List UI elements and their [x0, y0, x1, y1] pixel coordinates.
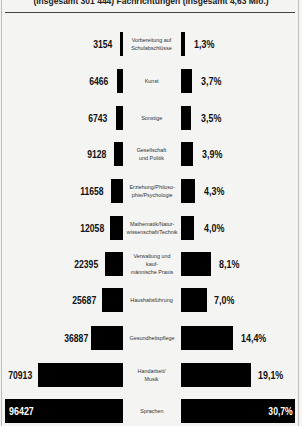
- chart-row: 9128 Gesellschaft und Politik 3,9%: [0, 142, 302, 166]
- left-bar: [120, 32, 123, 56]
- right-bar: [181, 363, 251, 387]
- chart-row: 96427 Sprachen 30,7%: [0, 399, 302, 423]
- right-bar: [181, 288, 207, 312]
- right-value: 14,4%: [241, 326, 266, 350]
- chart-row: 11658 Erziehung/Philoso- phie/Psychologi…: [0, 179, 302, 203]
- right-bar: [181, 326, 233, 350]
- category-label: Verwaltung und kauf- männische Praxis: [124, 252, 180, 276]
- left-value: 9128: [87, 142, 106, 166]
- left-bar: [116, 106, 123, 130]
- chart-row: 22395 Verwaltung und kauf- männische Pra…: [0, 252, 302, 276]
- right-value: 3,7%: [201, 69, 221, 93]
- right-value: 30,7%: [269, 399, 293, 423]
- right-bar: [181, 252, 211, 276]
- right-value: 3,9%: [202, 142, 222, 166]
- left-bar: [110, 216, 123, 240]
- left-value: 70913: [8, 363, 32, 387]
- left-bar: [38, 363, 123, 387]
- left-value: 6466: [89, 69, 108, 93]
- right-value: 7,0%: [214, 288, 234, 312]
- left-bar: [91, 326, 123, 350]
- header-divider: [5, 12, 295, 13]
- chart-row: 6466 Kunst 3,7%: [0, 69, 302, 93]
- category-label: Kunst: [124, 69, 180, 93]
- left-bar: [114, 142, 123, 166]
- right-value: 4,0%: [204, 216, 224, 240]
- left-value: 6743: [88, 106, 107, 130]
- right-bar: [181, 32, 185, 56]
- right-bar: [181, 179, 195, 203]
- left-value: 36887: [64, 326, 88, 350]
- left-value: 11658: [81, 179, 104, 203]
- chart-row: 12058 Mathematik/Natur- wissenschaft/Tec…: [0, 216, 302, 240]
- left-value: 25687: [72, 288, 96, 312]
- left-value: 22395: [74, 252, 98, 276]
- category-label: Handarbeit/ Musik: [124, 363, 180, 387]
- right-bar: [181, 69, 192, 93]
- right-bar: [181, 216, 194, 240]
- right-bar: [181, 142, 193, 166]
- left-bar: [105, 252, 123, 276]
- category-label: Gesundheitspflege: [124, 326, 180, 350]
- category-label: Sonstige: [124, 106, 180, 130]
- chart-header: (insgesamt 301 444) Fachrichtungen (insg…: [0, 0, 302, 8]
- category-label: Gesellschaft und Politik: [124, 142, 180, 166]
- left-value: 12058: [80, 216, 104, 240]
- category-label: Sprachen: [124, 399, 180, 423]
- category-label: Mathematik/Natur- wissenschaft/Technik: [124, 216, 180, 240]
- left-bar: [111, 179, 123, 203]
- chart-row: 36887 Gesundheitspflege 14,4%: [0, 326, 302, 350]
- left-bar: [117, 69, 123, 93]
- right-value: 8,1%: [219, 252, 239, 276]
- left-value: 96427: [9, 399, 34, 423]
- category-label: Haushaltsführung: [124, 288, 180, 312]
- chart-row: 70913 Handarbeit/ Musik 19,1%: [0, 363, 302, 387]
- right-value: 4,3%: [204, 179, 224, 203]
- right-value: 1,3%: [194, 32, 214, 56]
- right-bar: [181, 106, 191, 130]
- right-value: 19,1%: [258, 363, 283, 387]
- chart-row: 25687 Haushaltsführung 7,0%: [0, 288, 302, 312]
- left-bar: [102, 288, 123, 312]
- chart-row: 3154 Vorbereitung auf Schulabschlüsse 1,…: [0, 32, 302, 56]
- right-value: 3,5%: [201, 106, 221, 130]
- category-label: Vorbereitung auf Schulabschlüsse: [124, 32, 180, 56]
- left-value: 3154: [93, 32, 112, 56]
- chart-row: 6743 Sonstige 3,5%: [0, 106, 302, 130]
- category-label: Erziehung/Philoso- phie/Psychologie: [124, 179, 180, 203]
